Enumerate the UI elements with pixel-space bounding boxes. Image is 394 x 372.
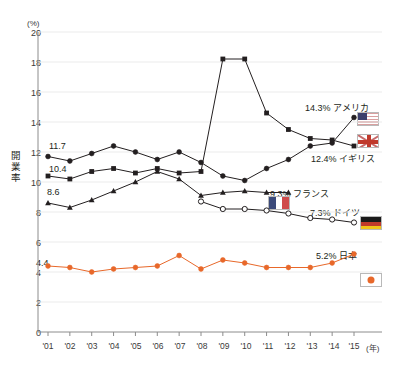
- x-tick-marks: [48, 332, 354, 336]
- plot-area: [0, 0, 394, 372]
- chart-container: (%) 開業率 20 18 16 14 12 10 8 6 4 2 0 '01 …: [0, 0, 394, 372]
